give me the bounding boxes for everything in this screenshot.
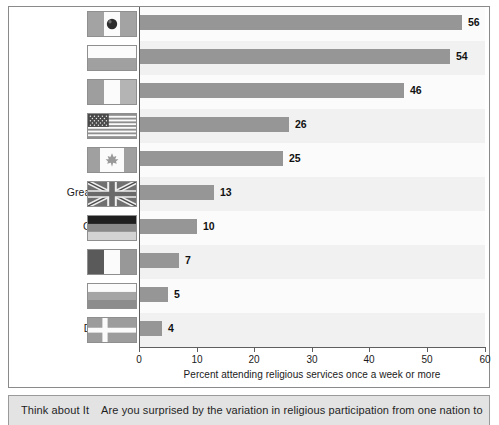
y-axis-line [139,7,140,348]
flag-france-icon [87,249,137,275]
x-tick [312,347,313,352]
bar-value-label: 5 [174,287,180,302]
flag-germany-icon [87,215,137,241]
chart-row: France 7 [9,245,491,279]
bar [139,219,197,234]
x-tick-label: 30 [297,354,327,365]
bar [139,49,450,64]
bar [139,151,283,166]
row-band [139,313,485,347]
x-tick [254,347,255,352]
flag-ireland-icon [87,79,137,105]
x-tick-label: 50 [412,354,442,365]
flag-russia-icon [87,283,137,309]
flag-canada-icon [87,147,137,173]
chart-plot-area: Mexico 56Poland 54Ireland 46U.S.A. [9,7,491,347]
chart-row: Denmark 4 [9,313,491,347]
caption-lead: Think about It [21,404,89,416]
chart-row: Ireland 46 [9,75,491,109]
x-tick [139,347,140,352]
bar-value-label: 46 [410,83,422,98]
x-tick-label: 10 [182,354,212,365]
bar [139,117,289,132]
bar [139,83,404,98]
bar-value-label: 4 [168,321,174,336]
bar-value-label: 54 [456,49,468,64]
x-tick [197,347,198,352]
chart-frame: Mexico 56Poland 54Ireland 46U.S.A. [8,6,490,388]
caption-body: Are you surprised by the variation in re… [101,404,483,416]
bar-value-label: 25 [289,151,301,166]
x-tick-label: 0 [124,354,154,365]
caption-box: Think about It Are you surprised by the … [8,395,490,425]
bar [139,287,168,302]
bar-value-label: 26 [295,117,307,132]
row-band [139,279,485,313]
bar-value-label: 7 [185,253,191,268]
chart-row: Russia 5 [9,279,491,313]
x-tick [427,347,428,352]
chart-row: Germany 10 [9,211,491,245]
x-tick [485,347,486,352]
flag-usa-icon [87,113,137,139]
x-tick-label: 60 [470,354,499,365]
x-tick-label: 40 [354,354,384,365]
bar [139,185,214,200]
bar [139,15,462,30]
flag-mexico-icon [87,11,137,37]
x-axis-title: Percent attending religious services onc… [139,369,485,380]
chart-row: Mexico 56 [9,7,491,41]
chart-row: Poland 54 [9,41,491,75]
flag-great-britain-icon [87,181,137,207]
bar [139,321,162,336]
bar-value-label: 10 [203,219,215,234]
flag-denmark-icon [87,317,137,343]
bar-value-label: 56 [468,15,480,30]
bar [139,253,179,268]
chart-row: U.S.A. 26 [9,109,491,143]
caption-text: Think about It Are you surprised by the … [21,404,481,416]
flag-poland-icon [87,45,137,71]
chart-row: Canada 25 [9,143,491,177]
x-tick-label: 20 [239,354,269,365]
bar-value-label: 13 [220,185,232,200]
x-tick [369,347,370,352]
chart-row: Great Britain 13 [9,177,491,211]
